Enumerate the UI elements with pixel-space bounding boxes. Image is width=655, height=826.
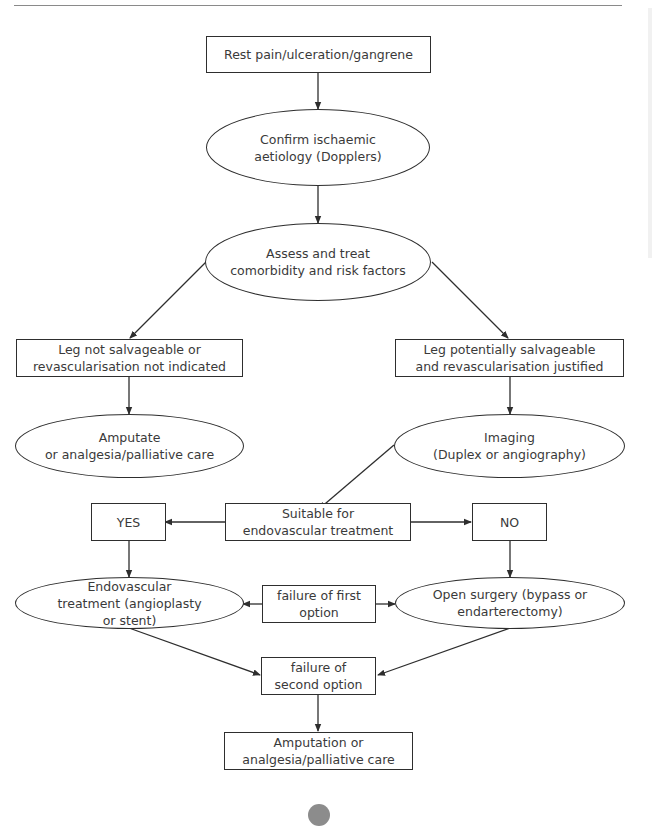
node-assess-treat: Assess and treat comorbidity and risk fa… xyxy=(205,223,431,301)
edge-open-surgery-to-failure-second xyxy=(378,628,510,675)
node-yes: YES xyxy=(91,503,166,541)
node-leg-salvageable: Leg potentially salvageable and revascul… xyxy=(395,339,624,377)
node-imaging: Imaging (Duplex or angiography) xyxy=(394,414,625,478)
node-rest-pain: Rest pain/ulceration/gangrene xyxy=(206,36,431,73)
node-failure-second-option: failure of second option xyxy=(261,657,376,695)
edge-assess-to-not-salvageable xyxy=(130,262,206,338)
node-no: NO xyxy=(472,503,547,541)
node-leg-not-salvageable: Leg not salvageable or revascularisation… xyxy=(16,339,243,377)
edge-endovascular-to-failure-second xyxy=(129,628,260,675)
node-amputate: Amputate or analgesia/palliative care xyxy=(15,414,244,478)
node-endovascular-treatment: Endovascular treatment (angioplasty or s… xyxy=(15,577,244,629)
node-open-surgery: Open surgery (bypass or endarterectomy) xyxy=(395,577,625,629)
node-amputation-final: Amputation or analgesia/palliative care xyxy=(224,732,413,770)
page-marker xyxy=(308,804,330,826)
node-failure-first-option: failure of first option xyxy=(262,585,376,623)
node-confirm-aetiology: Confirm ischaemic aetiology (Dopplers) xyxy=(206,109,430,186)
edge-assess-to-salvageable xyxy=(432,262,508,338)
node-suitable-endovascular: Suitable for endovascular treatment xyxy=(225,503,411,541)
edge-imaging-to-suitable xyxy=(319,445,394,509)
